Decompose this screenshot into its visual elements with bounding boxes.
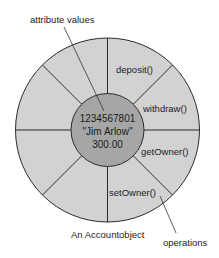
operation-getowner: getOwner() — [141, 146, 189, 157]
callout-attribute-values: attribute values — [30, 14, 95, 25]
operation-withdraw: withdraw() — [142, 103, 187, 114]
operation-deposit: deposit() — [116, 64, 153, 75]
attribute-value-account-number: 1234567801 — [80, 113, 136, 124]
diagram-caption: An Accountobject — [71, 229, 145, 240]
account-object-diagram: 1234567801 "Jim Arlow" 300.00 deposit() … — [0, 0, 219, 258]
operation-setowner: setOwner() — [109, 187, 156, 198]
callout-operations: operations — [163, 237, 208, 248]
operations-leader-line — [160, 196, 176, 233]
attribute-value-balance: 300.00 — [92, 139, 123, 150]
attribute-value-owner: "Jim Arlow" — [83, 126, 133, 137]
